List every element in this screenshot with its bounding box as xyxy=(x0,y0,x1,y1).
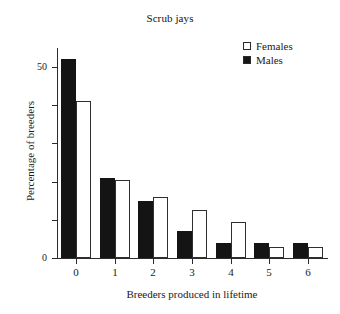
x-tick-6 xyxy=(308,259,309,264)
bar-males-1 xyxy=(100,178,115,258)
y-axis-title: Percentage of breeders xyxy=(24,61,36,241)
y-tick-20 xyxy=(52,182,57,183)
y-tick-50 xyxy=(52,67,57,68)
x-tick-label-5: 5 xyxy=(257,266,281,278)
x-tick-4 xyxy=(231,259,232,264)
x-tick-label-2: 2 xyxy=(141,266,165,278)
bar-males-3 xyxy=(177,231,192,258)
x-tick-label-0: 0 xyxy=(64,266,88,278)
x-tick-0 xyxy=(76,259,77,264)
x-tick-1 xyxy=(115,259,116,264)
chart-title: Scrub jays xyxy=(0,12,340,24)
x-tick-3 xyxy=(192,259,193,264)
bar-males-6 xyxy=(293,243,308,258)
bar-females-0 xyxy=(76,101,91,258)
y-axis-line xyxy=(57,48,58,259)
y-tick-label-0: 0 xyxy=(7,252,47,263)
bar-females-4 xyxy=(231,222,246,258)
y-tick-40 xyxy=(52,105,57,106)
x-tick-label-6: 6 xyxy=(296,266,320,278)
x-tick-label-4: 4 xyxy=(219,266,243,278)
bar-females-1 xyxy=(115,180,130,258)
bar-males-2 xyxy=(138,201,153,258)
bar-males-5 xyxy=(254,243,269,258)
x-axis-title: Breeders produced in lifetime xyxy=(57,288,327,300)
bar-females-3 xyxy=(192,210,207,258)
plot-area: 050 0123456 xyxy=(57,48,327,258)
bar-males-0 xyxy=(61,59,76,258)
x-tick-2 xyxy=(153,259,154,264)
bar-females-5 xyxy=(269,247,284,258)
bar-males-4 xyxy=(216,243,231,258)
y-tick-10 xyxy=(52,220,57,221)
chart-figure: Scrub jays Females Males 050 0123456 Bre… xyxy=(0,0,340,314)
bar-females-6 xyxy=(308,247,323,258)
bar-females-2 xyxy=(153,197,168,258)
x-tick-label-3: 3 xyxy=(180,266,204,278)
x-tick-label-1: 1 xyxy=(103,266,127,278)
y-tick-30 xyxy=(52,143,57,144)
y-tick-0 xyxy=(52,258,57,259)
x-tick-5 xyxy=(269,259,270,264)
